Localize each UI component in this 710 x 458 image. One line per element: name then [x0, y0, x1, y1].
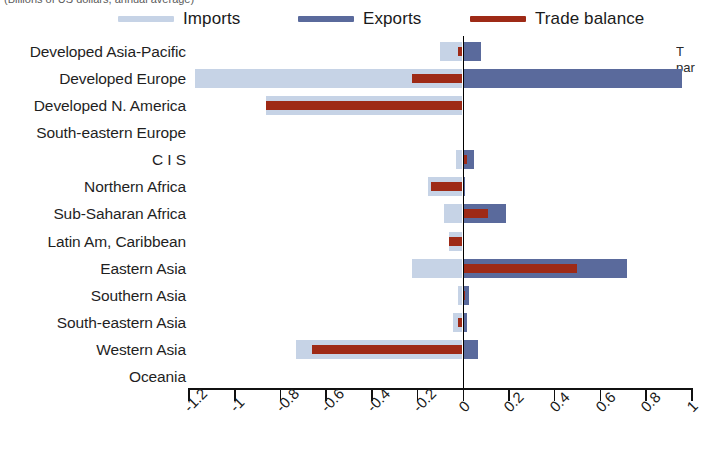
- chart-row: C I S: [0, 148, 710, 175]
- bar-imports: [412, 259, 462, 278]
- chart-row: Developed Asia-Pacific: [0, 40, 710, 67]
- legend-label-imports: Imports: [183, 9, 240, 29]
- legend-item-trade-balance[interactable]: Trade balance: [470, 6, 644, 32]
- chart-row: Latin Am, Caribbean: [0, 230, 710, 257]
- legend-swatch-exports: [298, 16, 354, 22]
- bar-trade-balance: [431, 182, 463, 191]
- bar-rows: Developed Asia-PacificDeveloped EuropeDe…: [0, 36, 710, 388]
- bar-trade-balance: [463, 264, 577, 273]
- x-axis-tick-label: 0: [455, 397, 473, 415]
- chart-row: Eastern Asia: [0, 257, 710, 284]
- category-label: Western Asia: [0, 341, 186, 359]
- bar-trade-balance: [266, 101, 463, 110]
- x-axis-tick-label: 0.8: [637, 388, 664, 415]
- chart-row: South-eastern Europe: [0, 121, 710, 148]
- x-axis-tick-label: 0.2: [500, 388, 527, 415]
- category-label: South-eastern Europe: [0, 124, 186, 142]
- category-label: Developed Europe: [0, 70, 186, 88]
- legend-label-exports: Exports: [363, 9, 421, 29]
- zero-axis-line: [463, 36, 465, 394]
- x-axis: -1.2-1-0.8-0.6-0.4-0.200.20.40.60.81: [0, 388, 710, 458]
- bar-trade-balance: [412, 74, 462, 83]
- category-label: Eastern Asia: [0, 260, 186, 278]
- category-label: Sub-Saharan Africa: [0, 205, 186, 223]
- bar-trade-balance: [449, 237, 463, 246]
- category-label: Southern Asia: [0, 287, 186, 305]
- chart-row: Southern Asia: [0, 284, 710, 311]
- chart-row: South-eastern Asia: [0, 311, 710, 338]
- chart-row: Sub-Saharan Africa: [0, 202, 710, 229]
- legend-item-imports[interactable]: Imports: [118, 6, 240, 32]
- chart-row: Western Asia: [0, 338, 710, 365]
- x-axis-line: [188, 388, 691, 390]
- bar-exports: [463, 69, 682, 88]
- legend-item-exports[interactable]: Exports: [298, 6, 421, 32]
- bar-exports: [463, 340, 479, 359]
- plot-area: Developed Asia-PacificDeveloped EuropeDe…: [0, 36, 710, 388]
- x-axis-tick-label: 0.4: [546, 388, 573, 415]
- bar-exports: [463, 42, 481, 61]
- bar-imports: [444, 204, 462, 223]
- chart-row: Northern Africa: [0, 175, 710, 202]
- legend-swatch-imports: [118, 16, 174, 22]
- x-axis-tick-label: 0.6: [592, 388, 619, 415]
- trade-balance-chart: (Billions of US dollars, annual average)…: [0, 0, 710, 458]
- category-label: Latin Am, Caribbean: [0, 233, 186, 251]
- category-label: C I S: [0, 151, 186, 169]
- chart-row: Developed N. America: [0, 94, 710, 121]
- bar-imports: [456, 150, 463, 169]
- bar-trade-balance: [312, 345, 463, 354]
- x-axis-tick-label: 1: [683, 397, 701, 415]
- legend-label-trade-balance: Trade balance: [535, 9, 644, 29]
- legend-swatch-trade-balance: [470, 16, 526, 22]
- chart-legend: Imports Exports Trade balance: [0, 6, 710, 32]
- category-label: Northern Africa: [0, 178, 186, 196]
- bar-trade-balance: [463, 209, 488, 218]
- category-label: South-eastern Asia: [0, 314, 186, 332]
- chart-row: Developed Europe: [0, 67, 710, 94]
- category-label: Developed Asia-Pacific: [0, 43, 186, 61]
- x-axis-tick-label: -1: [226, 394, 247, 415]
- category-label: Developed N. America: [0, 97, 186, 115]
- category-label: Oceania: [0, 368, 186, 386]
